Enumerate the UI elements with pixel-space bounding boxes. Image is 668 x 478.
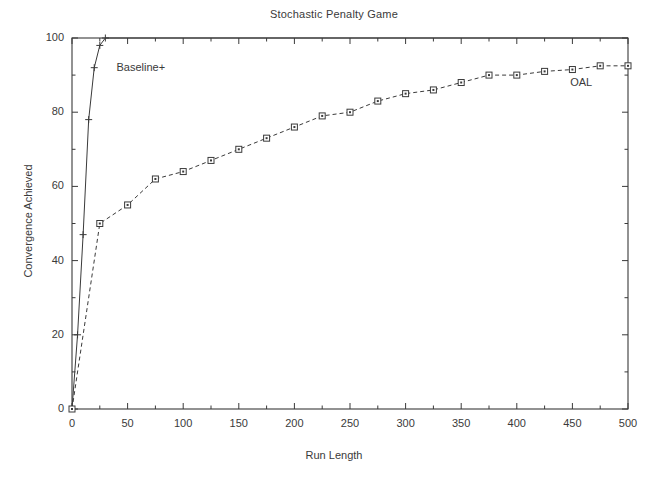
plot-canvas: [0, 0, 668, 478]
series-annotation-oal: OAL: [570, 76, 592, 88]
data-point-marker: [91, 64, 98, 71]
data-point-center: [154, 178, 156, 180]
data-point-center: [182, 171, 184, 173]
chart-figure: Stochastic Penalty Game Convergence Achi…: [0, 0, 668, 478]
plot-frame: [72, 38, 628, 409]
x-tick-label: 500: [605, 417, 651, 429]
y-tick-label: 80: [24, 105, 64, 117]
y-tick-label: 60: [24, 179, 64, 191]
x-tick-label: 450: [549, 417, 595, 429]
data-point-center: [293, 126, 295, 128]
data-point-center: [599, 65, 601, 67]
y-tick-label: 40: [24, 254, 64, 266]
plot-frame-box: [72, 38, 628, 409]
data-point-center: [460, 82, 462, 84]
x-tick-label: 350: [438, 417, 484, 429]
x-axis-label: Run Length: [0, 449, 668, 461]
x-tick-label: 200: [271, 417, 317, 429]
data-point-center: [349, 111, 351, 113]
y-tick-label: 20: [24, 328, 64, 340]
y-axis-label: Convergence Achieved: [22, 121, 34, 321]
data-point-center: [488, 74, 490, 76]
x-tick-label: 300: [383, 417, 429, 429]
data-point-center: [238, 148, 240, 150]
data-point-center: [377, 100, 379, 102]
x-tick-label: 150: [216, 417, 262, 429]
data-point-center: [516, 74, 518, 76]
x-tick-label: 100: [160, 417, 206, 429]
data-point-center: [571, 69, 573, 71]
data-point-marker: [80, 231, 87, 238]
data-point-center: [544, 70, 546, 72]
data-point-center: [432, 89, 434, 91]
chart-title: Stochastic Penalty Game: [0, 8, 668, 20]
series-line-baseline-: [72, 38, 628, 409]
x-tick-label: 0: [49, 417, 95, 429]
data-point-center: [321, 115, 323, 117]
data-point-center: [405, 93, 407, 95]
y-tick-label: 0: [24, 402, 64, 414]
series-annotation-baseline-: Baseline+: [116, 61, 165, 73]
x-tick-label: 50: [105, 417, 151, 429]
data-point-center: [71, 408, 73, 410]
data-point-center: [99, 223, 101, 225]
data-series-group: [69, 35, 631, 413]
data-point-center: [210, 159, 212, 161]
axis-ticks: [72, 38, 628, 409]
data-point-marker: [85, 116, 92, 123]
data-point-center: [627, 65, 629, 67]
x-tick-label: 250: [327, 417, 373, 429]
data-point-center: [127, 204, 129, 206]
y-tick-label: 100: [24, 31, 64, 43]
data-point-center: [266, 137, 268, 139]
series-line-oal: [72, 66, 628, 409]
x-tick-label: 400: [494, 417, 540, 429]
data-point-marker: [74, 331, 81, 338]
